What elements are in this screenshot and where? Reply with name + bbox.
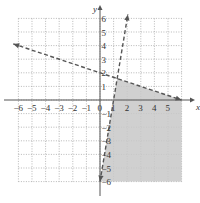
x-tick-label: 4: [152, 103, 157, 113]
y-tick-label: 4: [102, 41, 107, 51]
x-axis-arrow-icon: [190, 98, 195, 103]
x-tick-label: 5: [166, 103, 171, 113]
y-tick-label: −6: [102, 177, 112, 187]
x-tick-label: 2: [125, 103, 130, 113]
graph: xy −6−5−4−3−2−1012345654321−1−2−3−4−5−6: [0, 0, 200, 203]
x-tick-label: 3: [138, 103, 143, 113]
y-tick-label: 2: [102, 68, 107, 78]
shaded-region: [100, 79, 182, 182]
line-arrow-icon: [175, 96, 182, 101]
y-axis-label: y: [92, 4, 97, 14]
y-tick-label: 3: [102, 55, 107, 65]
y-tick-label: −3: [102, 136, 112, 146]
y-tick-label: 6: [102, 14, 107, 24]
line-arrow-icon: [124, 14, 129, 20]
x-tick-label: −3: [54, 103, 64, 113]
y-tick-label: 1: [102, 82, 107, 92]
boundary-line: [13, 44, 181, 100]
line-arrow-icon: [13, 43, 20, 48]
x-tick-label: −4: [41, 103, 51, 113]
x-tick-label: −2: [68, 103, 78, 113]
y-tick-label: −5: [102, 164, 112, 174]
y-tick-label: 5: [102, 28, 107, 38]
x-tick-label: −1: [81, 103, 91, 113]
y-tick-label: −1: [102, 109, 112, 119]
x-axis-label: x: [195, 102, 200, 112]
y-tick-label: −2: [102, 123, 112, 133]
y-tick-label: −4: [102, 150, 112, 160]
x-tick-label: −5: [27, 103, 37, 113]
x-tick-label: 1: [111, 103, 116, 113]
y-axis-arrow-icon: [98, 5, 103, 10]
x-tick-label: −6: [13, 103, 23, 113]
